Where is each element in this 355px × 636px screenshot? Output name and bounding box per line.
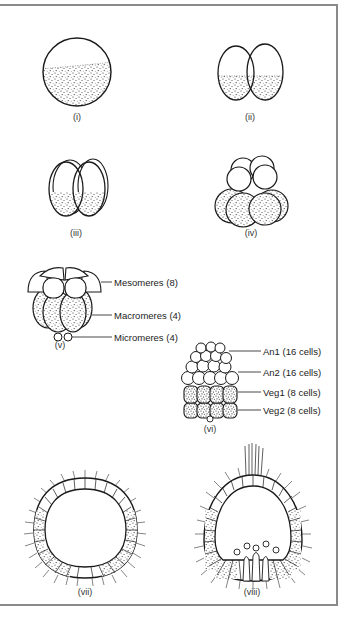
callout-veg2: Veg2 (8 cells) [263,405,321,416]
apical-tuft [245,443,263,476]
stage-ii-two-cell [216,44,285,106]
stage-label-vii: (vii) [78,587,93,597]
callout-mesomeres: Mesomeres (8) [114,277,178,288]
callout-an2: An2 (16 cells) [263,367,321,378]
stage-label-ii: (ii) [245,112,255,122]
stage-vii-blastula [24,470,146,586]
stage-label-iv: (iv) [245,228,258,238]
diagram-stage: (i) (ii) (iii) (iv) (v) (vi) (vii) (viii… [0,0,355,636]
stage-v-sixteen-cell [28,268,112,341]
stage-i-zygote [40,38,114,110]
stage-iv-eight-cell [215,156,288,227]
stage-label-viii: (viii) [244,587,261,597]
callout-macromeres: Macromeres (4) [114,310,181,321]
stage-label-vi: (vi) [204,424,217,434]
stage-label-v: (v) [55,340,66,350]
callout-micromeres: Micromeres (4) [114,332,178,343]
stage-viii-mesenchyme-blastula [194,443,312,590]
stage-iii-four-cell [48,159,108,220]
stage-vi-sixty-four-cell [182,342,262,422]
callout-an1: An1 (16 cells) [263,346,321,357]
stage-label-i: (i) [73,112,81,122]
stage-label-iii: (iii) [70,228,82,238]
callout-veg1: Veg1 (8 cells) [263,387,321,398]
